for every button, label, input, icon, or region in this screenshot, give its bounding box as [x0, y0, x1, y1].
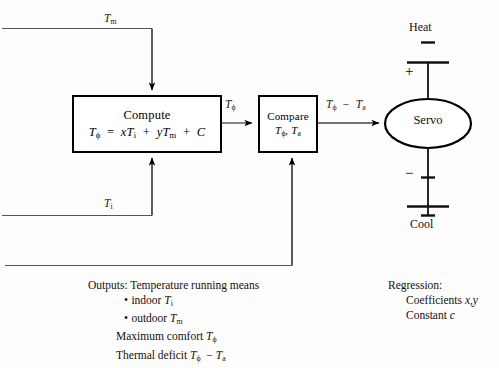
- terminal-label-heat: Heat: [409, 21, 432, 35]
- signal-label-compute-output: Tϕ: [225, 98, 236, 112]
- outputs-note-bullet-1: • indoor Ti: [88, 293, 259, 311]
- regression-note: Regression: Coefficients x,y Constant c: [388, 278, 478, 323]
- compare-block-text: Compare Tϕ, Ta: [260, 110, 316, 138]
- terminal-label-cool: Cool: [410, 218, 433, 232]
- outputs-note-heading: Outputs:: [88, 279, 128, 291]
- compute-block-formula: Tϕ = xTi + yTm + C: [74, 125, 220, 140]
- terminal-plus-sign: +: [405, 63, 413, 80]
- outputs-note-line-5: Thermal deficit Tϕ − Ta: [88, 348, 259, 366]
- outputs-note-line-4: Maximum comfort Tϕ: [88, 329, 259, 347]
- signal-label-outdoor: Tm: [104, 12, 116, 26]
- regression-note-heading: Regression:: [388, 278, 478, 293]
- bullet-marker-1: •: [124, 294, 129, 306]
- compare-block: Compare Tϕ, Ta: [258, 95, 318, 153]
- compare-block-title: Compare: [260, 110, 316, 122]
- servo-label: Servo: [385, 113, 471, 128]
- compute-block-text: Compute Tϕ = xTi + yTm + C: [74, 108, 220, 140]
- outputs-note: Outputs: Temperature running means • ind…: [88, 278, 259, 366]
- signal-label-compare-output: Tϕ − Ta: [326, 98, 366, 112]
- signal-label-indoor: Ti: [104, 197, 113, 211]
- outputs-note-bullet-2: • outdoor Tm: [88, 311, 259, 329]
- diagram-canvas: Compute Tϕ = xTi + yTm + C Compare Tϕ, T…: [0, 0, 499, 368]
- regression-note-line-1: Coefficients x,y: [388, 293, 478, 308]
- compare-block-args: Tϕ, Ta: [260, 124, 316, 138]
- compute-block-title: Compute: [74, 108, 220, 123]
- compute-block: Compute Tϕ = xTi + yTm + C: [72, 95, 222, 153]
- bullet-marker-2: •: [124, 312, 129, 324]
- regression-note-line-2: Constant c: [388, 308, 478, 323]
- outputs-note-subtitle: Temperature running means: [130, 279, 259, 291]
- outputs-note-line-1: Outputs: Temperature running means: [88, 278, 259, 293]
- terminal-minus-sign: −: [405, 165, 413, 182]
